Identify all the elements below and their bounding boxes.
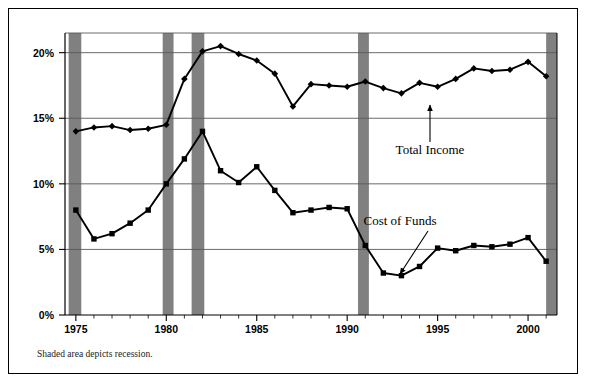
- data-point-diamond: [217, 43, 224, 50]
- marker-group: [73, 43, 550, 279]
- data-point-square: [200, 129, 205, 134]
- x-tick-label: 1985: [245, 323, 269, 335]
- data-point-square: [471, 243, 476, 248]
- recession-band-group: [69, 33, 557, 315]
- y-tick-label: 10%: [33, 178, 55, 190]
- figure-frame: 197519801985199019952000 0%5%10%15%20% T…: [8, 8, 578, 374]
- data-point-square: [218, 168, 223, 173]
- annotation-label-cost-of-funds: Cost of Funds: [364, 213, 437, 228]
- x-tick-label: 2000: [516, 323, 540, 335]
- data-point-diamond: [380, 85, 387, 92]
- data-point-square: [236, 180, 241, 185]
- data-point-square: [453, 248, 458, 253]
- data-point-diamond: [489, 68, 496, 75]
- series-group: [76, 46, 546, 276]
- data-point-square: [73, 207, 78, 212]
- data-point-diamond: [235, 51, 242, 58]
- y-tick-label-group: 0%5%10%15%20%: [33, 47, 55, 321]
- recession-band: [358, 33, 369, 315]
- data-point-square: [91, 236, 96, 241]
- data-point-square: [417, 264, 422, 269]
- x-tick-label: 1990: [335, 323, 359, 335]
- data-point-square: [363, 243, 368, 248]
- data-point-square: [543, 259, 548, 264]
- data-point-square: [326, 205, 331, 210]
- recession-band: [69, 33, 82, 315]
- data-point-square: [109, 231, 114, 236]
- data-point-diamond: [344, 83, 351, 90]
- y-tick-label: 5%: [39, 243, 55, 255]
- x-tick-label-group: 197519801985199019952000: [64, 323, 540, 335]
- data-point-square: [489, 244, 494, 249]
- chart-canvas: 197519801985199019952000 0%5%10%15%20% T…: [9, 9, 579, 375]
- data-point-square: [399, 273, 404, 278]
- data-point-diamond: [91, 124, 98, 131]
- data-point-square: [435, 245, 440, 250]
- annotation-arrow-cost-of-funds: [400, 231, 428, 274]
- data-point-diamond: [109, 123, 116, 130]
- recession-band: [192, 33, 205, 315]
- recession-caption: Shaded area depicts recession.: [37, 349, 153, 359]
- line-chart: 197519801985199019952000 0%5%10%15%20% T…: [9, 9, 579, 375]
- y-tick-group: [59, 53, 65, 315]
- data-point-square: [146, 207, 151, 212]
- data-point-square: [344, 206, 349, 211]
- annotation-group: Total IncomeCost of Funds: [364, 105, 465, 274]
- x-tick-group: [76, 315, 546, 321]
- y-tick-label: 20%: [33, 47, 55, 59]
- recession-band: [163, 33, 174, 315]
- data-point-square: [308, 207, 313, 212]
- data-point-diamond: [434, 83, 441, 90]
- x-tick-label: 1980: [155, 323, 179, 335]
- data-point-square: [507, 241, 512, 246]
- data-point-square: [290, 210, 295, 215]
- data-point-diamond: [145, 125, 152, 132]
- series-line-cost-of-funds: [76, 131, 546, 275]
- data-point-square: [272, 188, 277, 193]
- data-point-square: [164, 181, 169, 186]
- data-point-diamond: [507, 66, 514, 73]
- data-point-square: [254, 164, 259, 169]
- x-tick-label: 1975: [64, 323, 88, 335]
- data-point-square: [381, 270, 386, 275]
- data-point-diamond: [326, 82, 333, 89]
- data-point-square: [182, 156, 187, 161]
- y-tick-label: 15%: [33, 112, 55, 124]
- data-point-square: [127, 220, 132, 225]
- axis-group: [65, 33, 557, 315]
- x-tick-label: 1995: [426, 323, 450, 335]
- data-point-diamond: [127, 127, 134, 134]
- annotation-label-total-income: Total Income: [396, 142, 465, 157]
- data-point-square: [525, 235, 530, 240]
- y-tick-label: 0%: [39, 309, 55, 321]
